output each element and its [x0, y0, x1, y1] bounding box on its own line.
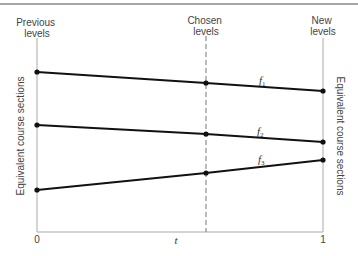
f3-point-chosen: [203, 170, 208, 175]
line-f1: [37, 72, 323, 91]
x-tick-1: 1: [320, 234, 326, 245]
x-axis-label: t: [174, 234, 178, 246]
x-tick-0: 0: [34, 234, 40, 245]
f1-point-chosen: [203, 80, 208, 85]
f1-point-start: [34, 69, 39, 74]
left-axis-label: Equivalent course sections: [15, 77, 26, 196]
f3-label: f3: [258, 153, 265, 167]
f2-point-chosen: [203, 131, 208, 136]
f2-point-end: [320, 139, 325, 144]
f1-point-end: [320, 88, 325, 93]
f2-label: f2: [257, 125, 264, 139]
diagram-canvas: Previous levels Chosen levels New levels…: [0, 0, 358, 256]
f3-point-start: [34, 187, 39, 192]
line-f3: [37, 160, 323, 190]
new-levels-label: New levels: [310, 15, 336, 37]
line-f2: [37, 125, 323, 142]
previous-levels-label: Previous levels: [16, 17, 58, 39]
chosen-levels-label: Chosen levels: [187, 15, 224, 37]
f2-point-start: [34, 122, 39, 127]
f3-point-end: [320, 157, 325, 162]
right-axis-label: Equivalent course sections: [335, 77, 346, 196]
f1-label: f1: [259, 74, 266, 88]
